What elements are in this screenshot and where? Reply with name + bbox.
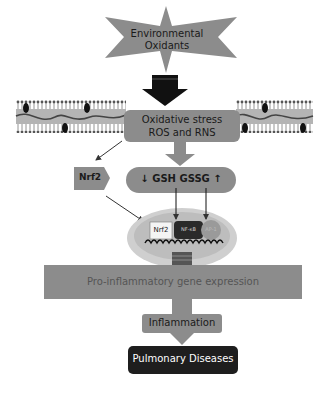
big-down-arrow-icon bbox=[142, 75, 188, 106]
nrf2-label: Nrf2 bbox=[74, 172, 106, 182]
cell-membrane-right bbox=[236, 100, 313, 133]
up-arrow-icon: ↑ bbox=[213, 173, 221, 184]
gene-expression-label: Pro-inflammatory gene expression bbox=[44, 276, 302, 287]
nucleus-nrf2-label: Nrf2 bbox=[150, 226, 172, 234]
ap1-label: AP-1 bbox=[201, 226, 221, 232]
inflammation-label: Inflammation bbox=[142, 317, 222, 328]
oxidative-stress-label: Oxidative stress ROS and RNS bbox=[124, 113, 240, 139]
cell-membrane-left bbox=[16, 100, 126, 133]
glutathione-label: ↓ GSH GSSG ↑ bbox=[126, 173, 236, 184]
gsh-gssg-text: GSH GSSG bbox=[152, 173, 210, 184]
gray-down-arrow-icon bbox=[165, 142, 195, 166]
arrow-nrf2-to-nucleus-icon bbox=[106, 196, 143, 221]
oxidative-stress-line2: ROS and RNS bbox=[124, 126, 240, 139]
inflammation-arrow-icon bbox=[170, 333, 194, 345]
gene-stem bbox=[172, 252, 192, 266]
source-line1: Environmental bbox=[120, 28, 214, 40]
nfkb-label: NF-κB bbox=[174, 226, 203, 232]
source-line2: Oxidants bbox=[120, 40, 214, 52]
arrow-to-nrf2-icon bbox=[96, 141, 122, 160]
oxidative-stress-line1: Oxidative stress bbox=[124, 113, 240, 126]
connector-stem bbox=[172, 299, 192, 314]
oxidative-stress-diagram bbox=[0, 0, 329, 396]
environmental-oxidants-label: Environmental Oxidants bbox=[120, 28, 214, 52]
down-arrow-icon: ↓ bbox=[140, 173, 148, 184]
pulmonary-diseases-label: Pulmonary Diseases bbox=[128, 353, 238, 364]
